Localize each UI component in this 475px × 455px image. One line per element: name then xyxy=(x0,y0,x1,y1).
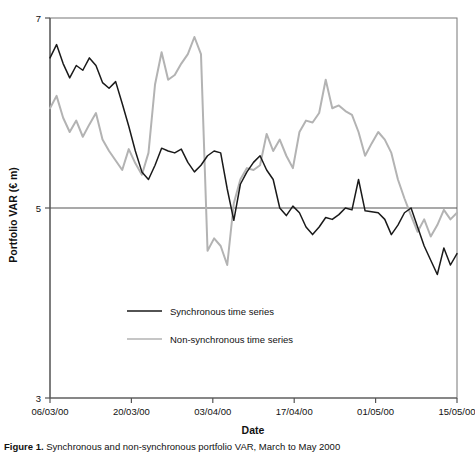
legend-label-synchronous: Synchronous time series xyxy=(170,306,274,317)
y-tick-label-5: 5 xyxy=(36,203,41,214)
figure-caption-number: Figure 1. xyxy=(4,441,44,452)
x-tick-label-3: 17/04/00 xyxy=(276,406,313,417)
figure-container: 753 06/03/0020/03/0003/04/0017/04/0001/0… xyxy=(0,0,475,455)
var-line-chart: 753 06/03/0020/03/0003/04/0017/04/0001/0… xyxy=(0,0,475,440)
x-tick-label-2: 03/04/00 xyxy=(194,406,231,417)
figure-caption-text: Synchronous and non-synchronous portfoli… xyxy=(44,441,341,452)
x-tick-label-0: 06/03/00 xyxy=(32,406,69,417)
y-axis-title: Portfolio VAR (€ m) xyxy=(7,167,19,262)
x-tick-label-4: 01/05/00 xyxy=(357,406,394,417)
x-tick-label-5: 15/05/00 xyxy=(439,406,475,417)
x-tick-label-1: 20/03/00 xyxy=(113,406,150,417)
y-axis-ticks: 753 xyxy=(36,13,50,404)
legend-label-non-synchronous: Non-synchronous time series xyxy=(170,334,293,345)
y-tick-label-3: 3 xyxy=(36,393,41,404)
x-axis-title: Date xyxy=(242,424,265,436)
y-tick-label-7: 7 xyxy=(36,13,41,24)
x-axis-ticks: 06/03/0020/03/0003/04/0017/04/0001/05/00… xyxy=(32,398,475,417)
figure-caption: Figure 1. Synchronous and non-synchronou… xyxy=(4,441,472,453)
